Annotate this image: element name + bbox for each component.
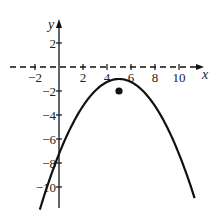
x-tick-label: 2 xyxy=(80,70,87,85)
y-tick-label: −2 xyxy=(42,84,56,99)
x-tick-label: 10 xyxy=(173,70,186,85)
y-axis-label: y xyxy=(46,17,55,32)
y-tick-label: 2 xyxy=(50,36,57,51)
parabola-curve xyxy=(40,79,195,210)
y-axis-arrow-icon xyxy=(56,19,62,28)
y-tick-label: −6 xyxy=(42,132,56,147)
x-tick-label: 8 xyxy=(152,70,159,85)
data-point xyxy=(115,87,122,94)
x-axis-label: x xyxy=(201,67,209,82)
x-tick-label: −2 xyxy=(28,70,42,85)
chart: xy−22468102−2−4−6−8−10 xyxy=(0,0,213,218)
y-tick-label: −4 xyxy=(42,108,56,123)
